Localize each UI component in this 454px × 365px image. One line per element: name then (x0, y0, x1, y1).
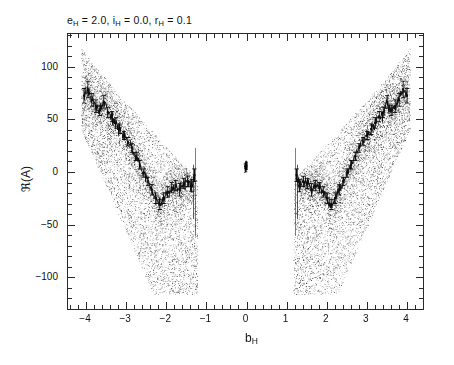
x-axis-title: bH (245, 331, 258, 346)
x-tick-label: 3 (363, 313, 369, 324)
tick-top-min (303, 34, 304, 38)
tick-right-min (419, 46, 423, 47)
tick-bottom-min (295, 305, 296, 309)
tick-left-maj (68, 172, 75, 173)
tick-right-maj (416, 67, 423, 68)
x-tick-label: −2 (160, 313, 171, 324)
tick-top-maj (287, 34, 288, 41)
tick-bottom-maj (407, 302, 408, 309)
y-axis-title: ℜ(A) (19, 149, 33, 209)
tick-top-min (343, 34, 344, 38)
tick-top-min (134, 34, 135, 38)
y-tick-label: −100 (0, 271, 58, 282)
scatter-plot-figure: eH = 2.0, iH = 0.0, rH = 0.1 −4−3−2−1012… (0, 0, 454, 365)
tick-bottom-maj (126, 302, 127, 309)
plot-title: eH = 2.0, iH = 0.0, rH = 0.1 (67, 14, 192, 28)
tick-bottom-maj (247, 302, 248, 309)
x-tick-label: −3 (119, 313, 130, 324)
tick-top-maj (126, 34, 127, 41)
tick-left-min (68, 98, 72, 99)
tick-left-min (68, 214, 72, 215)
tick-top-min (423, 34, 424, 38)
title-i-value: = 0.0, (121, 14, 155, 26)
tick-top-min (222, 34, 223, 38)
tick-top-min (150, 34, 151, 38)
tick-bottom-min (182, 305, 183, 309)
plot-frame (67, 33, 424, 310)
tick-top-min (255, 34, 256, 38)
tick-top-min (142, 34, 143, 38)
tick-left-min (68, 109, 72, 110)
tick-left-maj (68, 119, 75, 120)
tick-right-min (419, 288, 423, 289)
tick-top-min (182, 34, 183, 38)
tick-top-min (415, 34, 416, 38)
tick-left-min (68, 56, 72, 57)
tick-top-min (214, 34, 215, 38)
tick-left-min (68, 204, 72, 205)
tick-top-min (279, 34, 280, 38)
tick-top-min (351, 34, 352, 38)
tick-right-min (419, 98, 423, 99)
tick-left-min (68, 235, 72, 236)
tick-right-min (419, 130, 423, 131)
tick-bottom-min (158, 305, 159, 309)
tick-left-min (68, 77, 72, 78)
tick-left-maj (68, 225, 75, 226)
tick-left-min (68, 88, 72, 89)
tick-bottom-min (214, 305, 215, 309)
tick-left-min (68, 267, 72, 268)
tick-top-min (158, 34, 159, 38)
tick-bottom-min (238, 305, 239, 309)
tick-top-maj (407, 34, 408, 41)
tick-bottom-maj (327, 302, 328, 309)
tick-bottom-min (311, 305, 312, 309)
x-tick-label: 2 (323, 313, 329, 324)
x-tick-label: 4 (403, 313, 409, 324)
tick-bottom-min (335, 305, 336, 309)
tick-bottom-min (118, 305, 119, 309)
x-tick-label: −4 (79, 313, 90, 324)
tick-right-min (419, 35, 423, 36)
tick-top-min (190, 34, 191, 38)
tick-bottom-maj (287, 302, 288, 309)
tick-bottom-min (222, 305, 223, 309)
tick-top-min (118, 34, 119, 38)
tick-bottom-min (375, 305, 376, 309)
tick-top-min (295, 34, 296, 38)
tick-right-min (419, 214, 423, 215)
tick-right-maj (416, 277, 423, 278)
tick-bottom-min (134, 305, 135, 309)
tick-bottom-min (351, 305, 352, 309)
tick-bottom-min (102, 305, 103, 309)
tick-top-min (391, 34, 392, 38)
tick-right-maj (416, 225, 423, 226)
tick-left-min (68, 46, 72, 47)
x-axis-title-sub: H (252, 336, 258, 346)
tick-top-min (359, 34, 360, 38)
tick-top-maj (166, 34, 167, 41)
tick-bottom-min (415, 305, 416, 309)
tick-left-min (68, 130, 72, 131)
tick-left-min (68, 193, 72, 194)
tick-right-min (419, 56, 423, 57)
title-r-value: = 0.1 (164, 14, 192, 26)
tick-right-min (419, 151, 423, 152)
tick-top-min (335, 34, 336, 38)
tick-bottom-min (399, 305, 400, 309)
tick-bottom-min (263, 305, 264, 309)
tick-left-min (68, 161, 72, 162)
tick-bottom-min (190, 305, 191, 309)
tick-right-min (419, 161, 423, 162)
tick-bottom-min (359, 305, 360, 309)
tick-right-min (419, 298, 423, 299)
tick-right-maj (416, 119, 423, 120)
tick-top-min (198, 34, 199, 38)
tick-bottom-min (78, 305, 79, 309)
tick-right-min (419, 256, 423, 257)
tick-bottom-min (110, 305, 111, 309)
tick-bottom-maj (367, 302, 368, 309)
tick-right-min (419, 235, 423, 236)
tick-left-min (68, 288, 72, 289)
tick-bottom-min (303, 305, 304, 309)
